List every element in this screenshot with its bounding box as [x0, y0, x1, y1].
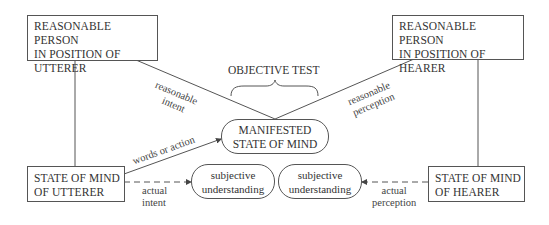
node-state-of-mind-hearer: STATE OF MIND OF HEARER [428, 166, 525, 202]
label-line1: actual [372, 185, 416, 197]
node-subjective-understanding-hearer: subjective understanding [278, 164, 362, 199]
node-text-line1: REASONABLE PERSON [399, 19, 523, 47]
node-subjective-understanding-utterer: subjective understanding [191, 164, 275, 199]
label-actual-intent: actual intent [142, 185, 167, 209]
label-line2: perception [372, 197, 416, 209]
objective-test-title: OBJECTIVE TEST [228, 64, 319, 76]
node-text-line2: IN POSITION OF [399, 47, 523, 61]
node-manifested-state-of-mind: MANIFESTED STATE OF MIND [221, 119, 329, 154]
node-reasonable-person-utterer: REASONABLE PERSON IN POSITION OF UTTERER [27, 15, 158, 61]
node-text-line2: understanding [192, 182, 274, 196]
label-line2: intent [142, 197, 167, 209]
node-state-of-mind-utterer: STATE OF MIND OF UTTERER [27, 166, 125, 202]
node-text-line3: UTTERER [34, 61, 157, 75]
node-text-line1: REASONABLE PERSON [34, 19, 157, 47]
node-text-line1: subjective [279, 168, 361, 182]
node-text-line1: STATE OF MIND [435, 171, 524, 185]
node-text-line1: subjective [192, 168, 274, 182]
node-text-line2: IN POSITION OF [34, 47, 157, 61]
label-line1: actual [142, 185, 167, 197]
node-text-line2: OF UTTERER [34, 185, 124, 199]
objective-test-brace [231, 80, 318, 96]
node-text-line1: STATE OF MIND [34, 171, 124, 185]
node-text-line1: MANIFESTED [222, 123, 328, 137]
node-text-line2: STATE OF MIND [222, 137, 328, 151]
node-reasonable-person-hearer: REASONABLE PERSON IN POSITION OF HEARER [392, 15, 524, 60]
node-text-line2: understanding [279, 182, 361, 196]
node-text-line2: OF HEARER [435, 185, 524, 199]
label-actual-perception: actual perception [372, 185, 416, 209]
node-text-line3: HEARER [399, 61, 523, 75]
